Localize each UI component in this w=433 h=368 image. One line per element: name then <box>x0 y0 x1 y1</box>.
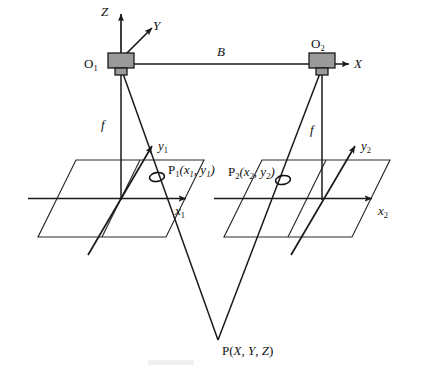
p1-coords-close: ) <box>209 162 214 177</box>
y1-axis-line <box>88 146 152 255</box>
right-camera-icon <box>309 53 335 75</box>
right-plane-axes <box>214 146 372 255</box>
p2-coords-mid: , y <box>254 164 267 179</box>
x2-axis-label: x2 <box>377 203 388 220</box>
right-focal-length-label: f <box>310 122 316 137</box>
o1-label-sub: 1 <box>93 63 97 73</box>
left-camera-body <box>108 53 134 68</box>
p1-coords-mid: , y <box>194 162 207 177</box>
y2-axis-line <box>291 146 355 255</box>
o2-label-sub: 2 <box>320 43 324 53</box>
right-camera-body <box>309 53 335 68</box>
right-camera-lens <box>316 68 328 75</box>
p2-label: P2(x2, y2) <box>228 164 275 181</box>
x-axis-label: X <box>353 56 363 71</box>
p1-point-marker <box>149 171 165 182</box>
object-point-label: P(X, Y, Z) <box>222 343 273 358</box>
left-camera-icon <box>108 53 134 75</box>
left-projection-ray <box>121 68 218 340</box>
baseline-label: B <box>217 44 225 59</box>
p2-label-main: P <box>228 164 235 179</box>
y2-axis-label-sub: 2 <box>367 145 371 155</box>
p1-label: P1(x1, y1) <box>168 162 215 179</box>
y2-axis-label: y2 <box>359 138 371 155</box>
p1-label-main: P <box>168 162 175 177</box>
o1-label: O1 <box>84 56 98 73</box>
p2-coords-close: ) <box>269 164 274 179</box>
projection-rays <box>121 68 322 340</box>
o2-label: O2 <box>311 36 325 53</box>
diagram-canvas: Z Y X O1 O2 B f f y1 x1 y2 x2 P1(x1, y1)… <box>0 0 433 368</box>
y1-axis-label-sub: 1 <box>164 145 168 155</box>
o2-label-main: O <box>311 36 320 51</box>
o1-label-main: O <box>84 56 93 71</box>
p1-coords-open: (x <box>179 162 189 177</box>
y1-axis-label: y1 <box>156 138 168 155</box>
left-focal-length-label: f <box>101 117 107 132</box>
x1-axis-label-sub: 1 <box>181 210 185 220</box>
z-axis-label: Z <box>101 4 109 19</box>
object-point-label-main: P <box>222 343 229 358</box>
x1-axis-label: x1 <box>174 203 185 220</box>
p2-point-marker <box>275 174 291 185</box>
object-point-close: ) <box>269 343 273 358</box>
x2-axis-label-sub: 2 <box>384 210 388 220</box>
p2-coords-open: (x <box>239 164 249 179</box>
y-axis-label: Y <box>153 18 162 33</box>
caption-smudge <box>148 360 194 365</box>
stereo-vision-diagram: Z Y X O1 O2 B f f y1 x1 y2 x2 P1(x1, y1)… <box>0 0 433 368</box>
right-projection-ray <box>218 68 322 340</box>
left-camera-lens <box>115 68 127 75</box>
left-plane-axes <box>28 146 186 255</box>
